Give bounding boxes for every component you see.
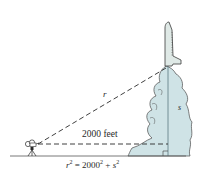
distance-label: 2000 feet bbox=[82, 130, 118, 140]
rocket-icon bbox=[165, 22, 181, 66]
camera-icon bbox=[25, 140, 39, 156]
eq-s-exp: 2 bbox=[116, 159, 119, 165]
pythagorean-equation: r2 = 20002 + s2 bbox=[66, 159, 119, 170]
height-label: s bbox=[178, 104, 181, 112]
eq-plus: + bbox=[103, 160, 113, 170]
smoke-plume bbox=[128, 66, 192, 156]
eq-equals: = bbox=[73, 160, 83, 170]
eq-base: 2000 bbox=[82, 160, 100, 170]
hypotenuse-label: r bbox=[103, 90, 107, 99]
